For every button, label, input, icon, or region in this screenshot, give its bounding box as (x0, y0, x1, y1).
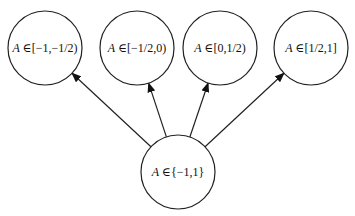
root-node: A ∈{−1,1} (141, 135, 215, 209)
child-node-c4: A ∈[1/2,1] (274, 11, 348, 85)
node-label: A ∈{−1,1} (151, 165, 205, 179)
nodes-group: A ∈{−1,1}A ∈[−1,−1/2)A ∈[−1/2,0)A ∈[0,1/… (8, 11, 348, 209)
child-node-c1: A ∈[−1,−1/2) (8, 11, 82, 85)
node-label: A ∈[−1/2,0) (107, 41, 166, 55)
node-label: A ∈[−1,−1/2) (11, 41, 77, 55)
tree-diagram: A ∈{−1,1}A ∈[−1,−1/2)A ∈[−1/2,0)A ∈[0,1/… (0, 0, 355, 216)
child-node-c3: A ∈[0,1/2) (183, 11, 257, 85)
node-label: A ∈[0,1/2) (193, 41, 246, 55)
edge-arrow-c2 (149, 83, 167, 137)
child-node-c2: A ∈[−1/2,0) (100, 11, 174, 85)
node-label: A ∈[1/2,1] (284, 41, 337, 55)
edge-arrow-c3 (190, 83, 208, 137)
